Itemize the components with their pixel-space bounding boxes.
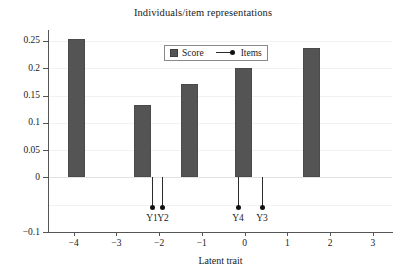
y-tick-label-0.25: 0.25	[23, 35, 40, 45]
item-dot-y4[interactable]	[236, 205, 241, 210]
x-tick-label-0: 0	[233, 238, 257, 248]
item-dot-y3[interactable]	[260, 205, 265, 210]
x-tick-label--3: −3	[104, 238, 128, 248]
chart-title: Individuals/item representations	[0, 7, 406, 18]
x-tick-label--2: −2	[147, 238, 171, 248]
item-stem-y2	[162, 177, 163, 207]
gridline-0.25	[48, 41, 392, 42]
legend-line-dot-icon	[216, 49, 238, 57]
item-label-y4: Y4	[226, 213, 250, 223]
x-tick-mark-1	[287, 232, 288, 236]
y-tick-mark-0.05	[43, 150, 48, 151]
item-stem-y3	[262, 177, 263, 207]
y-tick-mark-0.25	[43, 41, 48, 42]
gridline--0.05	[48, 205, 392, 206]
item-stem-y4	[238, 177, 239, 207]
x-tick-mark-2	[330, 232, 331, 236]
x-tick-mark--3	[116, 232, 117, 236]
chart-container: Individuals/item representations Y1 Y2 Y…	[0, 0, 406, 275]
y-tick-mark-0.1	[43, 123, 48, 124]
item-label-y3: Y3	[250, 213, 274, 223]
x-tick-mark--4	[74, 232, 75, 236]
x-tick-label-1: 1	[275, 238, 299, 248]
y-tick-label--0.1: −0.1	[23, 227, 40, 237]
item-stem-y1	[152, 177, 153, 207]
item-label-y2: Y2	[151, 213, 175, 223]
gridline-zero	[48, 177, 392, 178]
y-tick-mark-0	[43, 177, 48, 178]
y-tick-label-0: 0	[35, 172, 40, 182]
x-tick-mark--1	[202, 232, 203, 236]
y-tick-label-0.1: 0.1	[28, 117, 40, 127]
x-tick-label-3: 3	[361, 238, 385, 248]
legend-entry-score[interactable]: Score	[170, 48, 216, 58]
bar-score-3[interactable]	[181, 84, 198, 177]
y-tick-label-0.05: 0.05	[23, 145, 40, 155]
legend-label-items: Items	[241, 48, 262, 58]
y-tick-mark-0.15	[43, 96, 48, 97]
legend-label-score: Score	[182, 48, 204, 58]
x-axis-line	[48, 232, 393, 233]
gridline-0.1	[48, 123, 392, 124]
y-tick-mark--0.1	[43, 232, 48, 233]
legend-swatch-square-icon	[170, 49, 178, 57]
legend-entry-items[interactable]: Items	[216, 48, 262, 58]
y-tick-label-0.2: 0.2	[28, 63, 40, 73]
y-axis-line	[48, 30, 49, 232]
bar-score-2[interactable]	[134, 105, 151, 178]
x-tick-label-2: 2	[318, 238, 342, 248]
x-tick-label--1: −1	[190, 238, 214, 248]
item-dot-y2[interactable]	[160, 205, 165, 210]
chart-legend[interactable]: Score Items	[164, 45, 268, 61]
item-dot-y1[interactable]	[150, 205, 155, 210]
gridline-0.05	[48, 150, 392, 151]
bar-score-5[interactable]	[303, 48, 320, 178]
x-tick-mark-3	[373, 232, 374, 236]
bar-score-4[interactable]	[235, 68, 252, 177]
y-tick-mark-0.2	[43, 68, 48, 69]
y-tick-label-0.15: 0.15	[23, 90, 40, 100]
gridline-0.2	[48, 68, 392, 69]
bar-score-1[interactable]	[68, 39, 85, 177]
x-tick-mark--2	[159, 232, 160, 236]
x-tick-label--4: −4	[62, 238, 86, 248]
gridline-0.15	[48, 96, 392, 97]
x-tick-mark-0	[245, 232, 246, 236]
x-axis-title: Latent trait	[48, 255, 393, 266]
